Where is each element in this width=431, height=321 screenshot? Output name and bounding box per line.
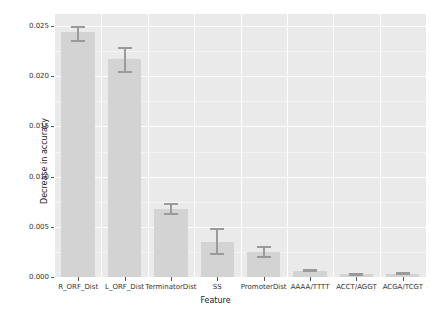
error-bar-cap-lower [257,256,271,258]
x-tick-label: PromoterDist [241,283,287,291]
gridline-vertical [194,14,195,277]
gridline-vertical [287,14,288,277]
x-tick-label: TerminatorDist [145,283,196,291]
x-tick-mark [217,277,218,281]
error-bar [349,273,363,276]
error-bar [257,246,271,258]
error-bar-line [124,47,126,73]
gridline-vertical [148,14,149,277]
bar [154,209,187,277]
error-bar [303,269,317,272]
y-tick-label: 0.005 [19,223,49,231]
gridline-vertical [333,14,334,277]
x-tick-mark [403,277,404,281]
error-bar-cap-lower [396,273,410,275]
x-tick-mark [356,277,357,281]
gridline-vertical [241,14,242,277]
y-tick-mark [51,76,54,77]
x-tick-mark [125,277,126,281]
x-tick-mark [171,277,172,281]
chart-figure: Decrease in accuracy Feature 0.0000.0050… [0,0,431,321]
x-tick-label: ACCT/AGGT [336,283,377,291]
error-bar [118,47,132,73]
y-tick-label: 0.020 [19,72,49,80]
x-tick-mark [310,277,311,281]
gridline-vertical [101,14,102,277]
x-axis-label: Feature [0,296,431,305]
error-bar-line [216,228,218,255]
error-bar [71,26,85,42]
bar [61,32,94,277]
bar [108,59,141,277]
error-bar-cap-lower [349,274,363,276]
x-tick-label: SS [213,283,222,291]
error-bar-cap-lower [210,253,224,255]
x-tick-label: ACGA/TCGT [383,283,423,291]
y-tick-mark [51,177,54,178]
error-bar-cap-lower [71,40,85,42]
x-tick-label: AAAA/TTTT [291,283,330,291]
gridline-vertical [380,14,381,277]
error-bar-cap-lower [164,213,178,215]
error-bar [164,203,178,215]
x-tick-label: L_ORF_Dist [105,283,144,291]
y-tick-mark [51,26,54,27]
y-tick-mark [51,227,54,228]
x-tick-mark [78,277,79,281]
x-tick-label: R_ORF_Dist [58,283,98,291]
y-tick-mark [51,277,54,278]
y-tick-label: 0.015 [19,122,49,130]
error-bar-cap-lower [303,270,317,272]
error-bar-cap-lower [118,71,132,73]
x-tick-mark [264,277,265,281]
gridline-horizontal [55,277,426,278]
y-tick-mark [51,126,54,127]
plot-panel [55,14,426,277]
error-bar [210,228,224,255]
error-bar [396,272,410,275]
y-tick-label: 0.025 [19,22,49,30]
y-tick-label: 0.010 [19,173,49,181]
y-tick-label: 0.000 [19,273,49,281]
